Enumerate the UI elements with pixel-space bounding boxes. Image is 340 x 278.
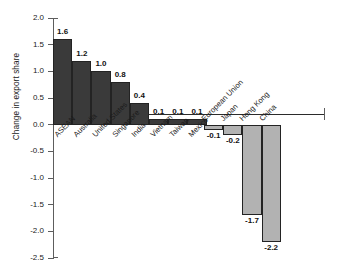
y-tick-label: 0.5	[4, 94, 44, 102]
bar-value-label: -0.2	[218, 137, 247, 145]
bar-european-union	[204, 125, 223, 130]
y-tick-label: 2.0	[4, 14, 44, 22]
bar-value-label: 0.4	[125, 92, 154, 100]
y-tick-label: 1.0	[4, 67, 44, 75]
y-tick-label: 0.0	[4, 121, 44, 129]
bar-value-label: 1.6	[48, 28, 77, 36]
bar-value-label: -2.2	[257, 244, 286, 252]
y-tick-label: 1.5	[4, 41, 44, 49]
bar-value-label: 0.8	[106, 71, 135, 79]
y-tick-label: -1.0	[4, 174, 44, 182]
y-tick-label: -2.0	[4, 227, 44, 235]
y-tick-label: -0.5	[4, 147, 44, 155]
y-tick-label: -2.5	[4, 254, 44, 262]
bar-value-label: 1.2	[67, 50, 96, 58]
y-tick-label: -1.5	[4, 201, 44, 209]
bar-value-label: 1.0	[86, 60, 115, 68]
bar-value-label: -1.7	[237, 217, 266, 225]
bar-chart: Change in export share 2.01.51.00.50.0-0…	[0, 0, 340, 278]
